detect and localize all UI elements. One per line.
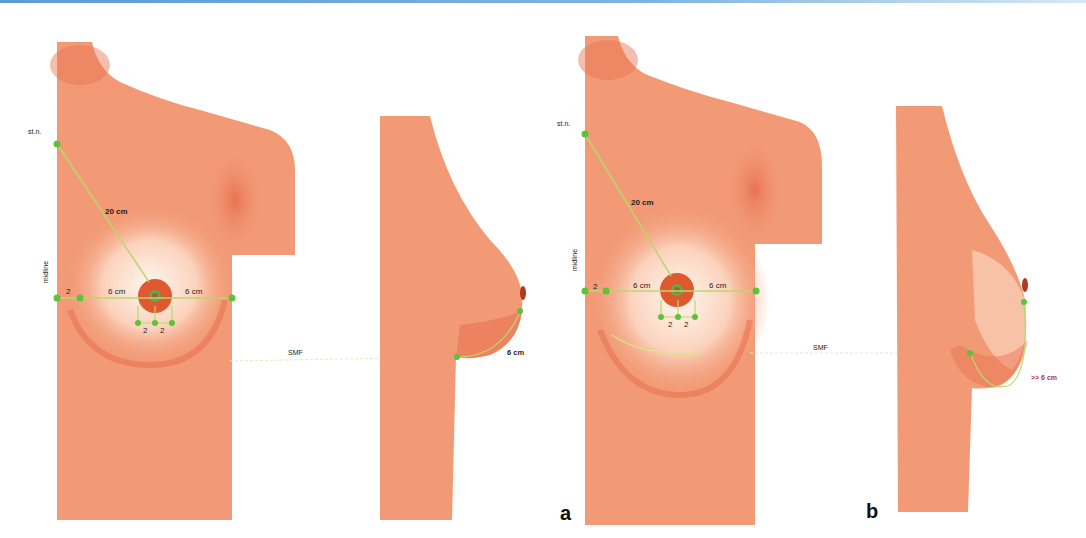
label-below-left: 2 (668, 320, 673, 329)
label-nipple-to-fold: >> 6 cm (1031, 374, 1057, 381)
panel-letter-a: a (560, 502, 571, 525)
label-smf: SMF (288, 349, 303, 356)
label-below-right: 2 (160, 326, 165, 335)
label-left-width: 6 cm (633, 281, 651, 290)
label-sternal-notch: st.n. (557, 120, 570, 127)
side-silhouette (380, 116, 522, 520)
panel-letter-b: b (866, 500, 878, 523)
breast-measurement-diagram: st.n. midline 20 cm 6 cm 6 cm 2 2 2 SMF … (0, 0, 1086, 538)
nipple-profile (520, 286, 526, 300)
label-sternal-notch: st.n. (28, 128, 41, 135)
label-left-width: 6 cm (108, 287, 126, 296)
nipple-profile (1022, 278, 1028, 292)
panel-a: st.n. midline 20 cm 6 cm 6 cm 2 2 2 SMF … (28, 42, 526, 520)
label-sn-to-nipple: 20 cm (631, 198, 654, 207)
label-midline: midline (571, 249, 578, 271)
side-view-b: >> 6 cm (896, 106, 1057, 512)
label-midline-offset: 2 (66, 287, 71, 296)
panel-b: st.n. midline 20 cm 6 cm 6 cm 2 2 2 SMF … (557, 36, 1057, 525)
label-sn-to-nipple: 20 cm (105, 207, 128, 216)
label-nipple-to-fold: 6 cm (507, 348, 524, 357)
label-midline-offset: 2 (593, 282, 598, 291)
side-view-a: 6 cm (380, 116, 526, 520)
label-right-width: 6 cm (185, 287, 203, 296)
label-midline: midline (42, 261, 49, 283)
label-right-width: 6 cm (709, 281, 727, 290)
front-view-b: st.n. midline 20 cm 6 cm 6 cm 2 2 2 (557, 36, 822, 525)
label-smf: SMF (813, 344, 828, 351)
front-view-a: st.n. midline 20 cm 6 cm 6 cm 2 2 2 (28, 42, 295, 520)
label-below-right: 2 (684, 320, 689, 329)
label-below-left: 2 (143, 326, 148, 335)
